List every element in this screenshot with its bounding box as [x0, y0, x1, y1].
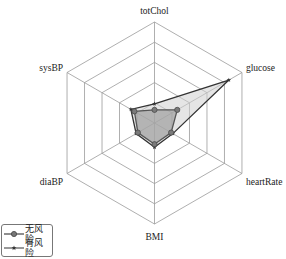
series-no-risk — [132, 107, 180, 147]
data-point — [169, 130, 174, 135]
axis-label-heartRate: heartRate — [246, 177, 282, 187]
axis-label-sysBP: sysBP — [39, 63, 63, 73]
star-marker-icon — [4, 243, 22, 253]
legend-label: 有风险 — [25, 238, 50, 258]
radar-chart: totCholglucoseheartRateBMIdiaBPsysBP — [0, 0, 286, 259]
axis-label-glucose: glucose — [246, 63, 275, 73]
data-point — [135, 130, 140, 135]
data-point — [175, 107, 180, 112]
legend: 无风险 有风险 — [1, 224, 53, 257]
data-point — [132, 109, 137, 114]
axis-label-totChol: totChol — [140, 6, 169, 16]
axis-label-diaBP: diaBP — [40, 177, 63, 187]
axis-label-BMI: BMI — [146, 232, 164, 242]
circle-marker-icon — [4, 229, 22, 239]
series-area — [134, 110, 177, 144]
legend-item-at-risk: 有风险 — [4, 241, 50, 255]
data-point — [152, 107, 157, 112]
data-point — [152, 142, 157, 147]
